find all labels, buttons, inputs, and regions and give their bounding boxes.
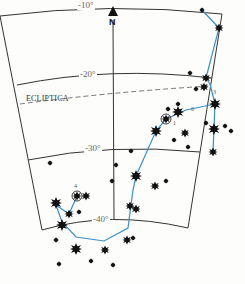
dec-label-10: -10°: [77, 1, 95, 10]
ra-line-center: [113, 20, 114, 220]
coordinate-grid: [0, 8, 222, 230]
ecliptic-label: ECLIPTICA: [26, 95, 69, 103]
dec-label-20: -20°: [79, 70, 97, 79]
dec-line-20: [17, 73, 212, 85]
ra-line-left: [0, 16, 42, 230]
constellation-lines: [56, 10, 219, 241]
north-arrow-icon: [108, 6, 118, 16]
star-number-1: 1: [173, 120, 176, 126]
dec-label-40: -40°: [92, 215, 110, 224]
ra-line-right: [188, 14, 222, 228]
star-chart: [0, 0, 245, 284]
stars: [47, 7, 234, 268]
star-number-3: 3: [213, 89, 216, 95]
dec-label-30: -30°: [84, 144, 102, 153]
north-label: N: [109, 18, 116, 27]
star-number-4: 4: [74, 183, 77, 189]
star-number-6: 6: [191, 106, 194, 112]
